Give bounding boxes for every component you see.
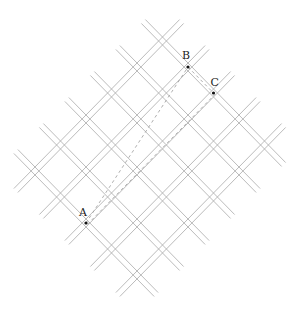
road-line-i4 (120, 127, 286, 296)
point-c-label: C (211, 76, 219, 89)
road-line-i3 (94, 101, 260, 270)
point-c-marker (212, 91, 215, 94)
road-line-i0 (18, 23, 184, 192)
road-line-i1 (43, 49, 209, 218)
road-line-i4 (116, 124, 282, 293)
point-a-label: A (78, 206, 88, 219)
point-b-label: B (182, 49, 190, 62)
street-grid-diagram: ABC (0, 0, 302, 311)
route-straight-A-to-B (86, 67, 188, 223)
road-line-i2 (69, 75, 235, 244)
point-a-marker (84, 221, 87, 224)
road-line-i2 (65, 72, 231, 241)
road-line-i3 (90, 98, 256, 267)
roads-layer (14, 20, 286, 297)
road-line-i0 (14, 20, 180, 189)
point-b-marker (186, 65, 189, 68)
